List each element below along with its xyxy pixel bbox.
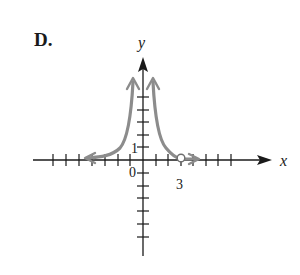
- curve-arrows: [85, 78, 199, 164]
- tick-label-three: 3: [176, 177, 183, 192]
- y-axis-label: y: [136, 34, 146, 52]
- open-circle-hole: [177, 154, 185, 162]
- tick-label-origin: 0: [129, 165, 136, 180]
- graph-figure: D. x: [0, 0, 300, 275]
- figure-label: D.: [34, 29, 52, 50]
- left-branch: [88, 82, 133, 158]
- x-axis: x: [33, 152, 287, 169]
- x-axis-label: x: [279, 152, 287, 169]
- tick-label-one: 1: [131, 141, 138, 156]
- right-branch: [153, 82, 196, 159]
